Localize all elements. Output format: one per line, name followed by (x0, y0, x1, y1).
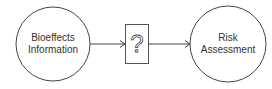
node-risk-assessment: Risk Assessment (190, 6, 266, 82)
node-label-line1: Bioeffects (31, 32, 75, 43)
node-unknown-process: ? (126, 25, 149, 64)
question-mark-label: ? (130, 30, 143, 57)
arrow-bioeffects-to-unknown (90, 41, 125, 48)
arrow-unknown-to-risk (149, 41, 190, 48)
node-label-line2: Information (28, 44, 78, 55)
flow-diagram: Bioeffects Information ? Risk Assessment (0, 0, 272, 89)
node-bioeffects-information: Bioeffects Information (16, 7, 90, 81)
node-label-line2: Assessment (201, 44, 256, 55)
node-label-line1: Risk (218, 32, 238, 43)
